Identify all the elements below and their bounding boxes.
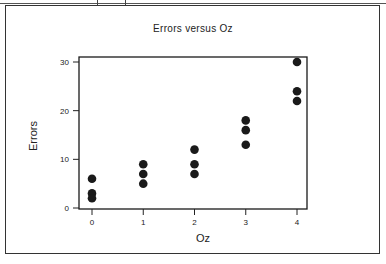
data-point	[190, 145, 199, 154]
scatter-plot: 010203001234OzErrors	[0, 0, 386, 264]
data-point	[241, 140, 250, 149]
plot-area	[79, 57, 307, 209]
data-point	[241, 116, 250, 125]
data-point	[139, 179, 148, 188]
data-point	[190, 170, 199, 179]
data-point	[190, 160, 199, 169]
x-tick-label: 2	[192, 218, 197, 227]
data-point	[88, 175, 97, 184]
x-tick-label: 0	[90, 218, 95, 227]
data-point	[241, 126, 250, 135]
data-point	[293, 87, 302, 96]
x-axis-label: Oz	[196, 232, 210, 244]
y-tick-label: 0	[65, 204, 70, 213]
data-point	[88, 194, 97, 203]
y-tick-label: 20	[60, 107, 69, 116]
data-point	[293, 58, 302, 67]
y-tick-label: 10	[60, 155, 69, 164]
x-tick-label: 3	[244, 218, 249, 227]
x-tick-label: 4	[295, 218, 300, 227]
data-point	[139, 160, 148, 169]
data-point	[293, 97, 302, 106]
y-tick-label: 30	[60, 58, 69, 67]
y-axis-label: Errors	[27, 121, 39, 151]
data-point	[139, 170, 148, 179]
x-tick-label: 1	[141, 218, 146, 227]
